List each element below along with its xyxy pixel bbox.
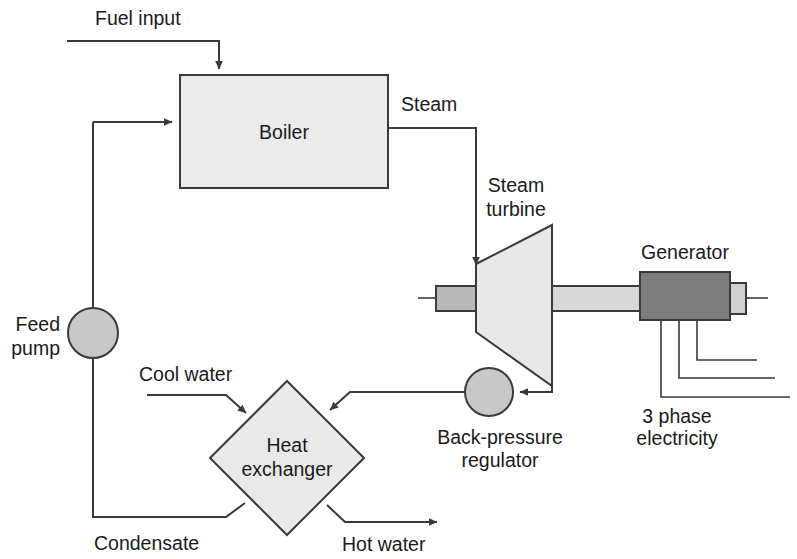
shaft-left-stub	[436, 286, 477, 311]
back-pressure-regulator-label-line1: Back-pressure	[437, 426, 563, 448]
feed-pump-node[interactable]: Feed pump	[11, 122, 118, 359]
feed-pump-label-line2: pump	[11, 337, 60, 359]
phase-line-2	[679, 320, 775, 378]
steam-turbine-label-line1: Steam	[488, 174, 544, 196]
cool-water-arrow	[147, 395, 246, 413]
boiler-node[interactable]: Boiler	[180, 75, 388, 188]
back-pressure-regulator-circle[interactable]	[465, 368, 513, 416]
hot-water-label: Hot water	[342, 533, 426, 555]
three-phase-label-line1: 3 phase	[642, 405, 711, 427]
turbine-exhaust-arrow	[520, 386, 552, 392]
steam-turbine-shape[interactable]	[476, 225, 552, 386]
condensate-label: Condensate	[94, 532, 199, 554]
diagram-canvas: Fuel input Boiler Steam	[0, 0, 797, 559]
steam-turbine-label-line2: turbine	[486, 198, 546, 220]
fuel-input-flow: Fuel input	[67, 7, 219, 69]
steam-arrow	[388, 128, 476, 265]
steam-flow: Steam	[388, 93, 476, 265]
steam-label: Steam	[401, 93, 457, 115]
steam-turbine-node[interactable]: Steam turbine	[476, 174, 552, 386]
shaft-right-stub	[729, 283, 746, 314]
generator-box[interactable]	[640, 272, 730, 320]
generator-node[interactable]: Generator	[640, 241, 730, 320]
fuel-input-label: Fuel input	[95, 7, 181, 29]
steam-to-heat-exchanger-arrow	[330, 392, 465, 410]
back-pressure-regulator-node[interactable]: Back-pressure regulator	[437, 368, 563, 471]
phase-line-3	[697, 320, 757, 360]
process-flow-diagram: Fuel input Boiler Steam	[0, 0, 797, 559]
cool-water-flow: Cool water	[139, 363, 246, 413]
fuel-input-arrow	[67, 41, 219, 69]
boiler-label: Boiler	[259, 121, 309, 143]
turbine-exhaust-flow	[520, 386, 552, 392]
phase-line-1	[661, 320, 790, 397]
hot-water-flow: Hot water	[327, 505, 437, 555]
hot-water-arrow	[327, 505, 437, 522]
generator-label: Generator	[641, 241, 729, 263]
steam-to-heat-exchanger-flow	[330, 392, 465, 410]
cool-water-label: Cool water	[139, 363, 233, 385]
three-phase-label-line2: electricity	[636, 427, 718, 449]
heat-exchanger-label-line2: exchanger	[241, 458, 333, 480]
feed-pump-label-line1: Feed	[16, 313, 60, 335]
heat-exchanger-label-line1: Heat	[266, 434, 308, 456]
back-pressure-regulator-label-line2: regulator	[462, 449, 539, 471]
feed-pump-circle[interactable]	[68, 308, 118, 358]
shaft-main	[550, 286, 642, 311]
three-phase-electricity-flow: 3 phase electricity	[636, 320, 790, 449]
